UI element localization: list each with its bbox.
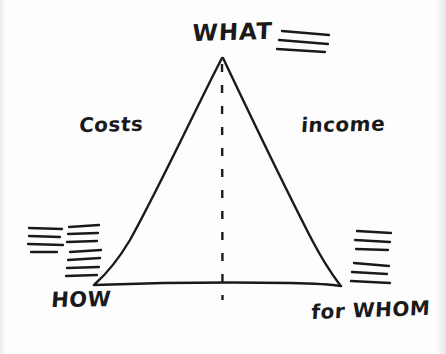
hatch-left-inner-lower	[66, 250, 101, 276]
label-how: HOW	[50, 287, 112, 312]
triangle-left-edge	[95, 58, 222, 284]
hatch-left-outer	[28, 228, 63, 252]
label-costs: Costs	[78, 112, 144, 137]
center-divider-dashed-line	[222, 64, 223, 300]
hatch-right-upper	[355, 231, 391, 250]
label-what: WHAT	[192, 18, 273, 46]
hatch-left-inner-upper	[67, 225, 99, 242]
triangle-base-edge	[94, 283, 341, 286]
hatch-right-lower	[351, 263, 390, 283]
triangle-right-edge	[223, 58, 340, 285]
diagram-canvas: WHAT Costs income HOW for WHOM	[0, 0, 446, 354]
hatch-top-right	[277, 31, 329, 52]
label-for-whom: for WHOM	[311, 296, 431, 324]
label-income: income	[300, 112, 386, 138]
